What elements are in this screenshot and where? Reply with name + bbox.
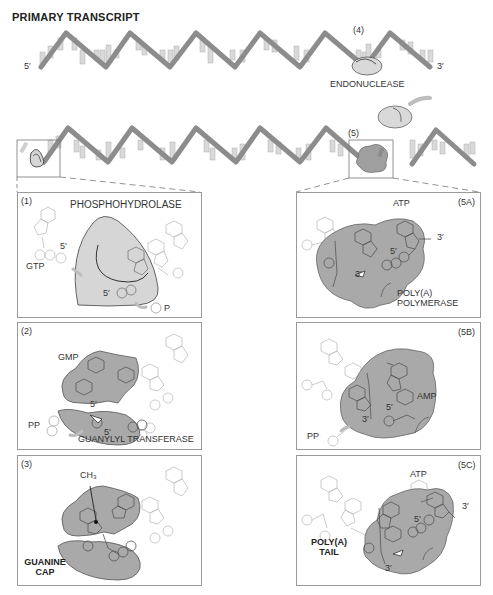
five-prime-label: 5′ xyxy=(414,514,421,524)
amp-label: AMP xyxy=(417,391,437,401)
guanine-cap-line2: CAP xyxy=(24,567,66,577)
five-prime-label: 5′ xyxy=(24,61,31,71)
panel-1-drawing xyxy=(18,193,201,317)
step-5c-label: (5C) xyxy=(458,460,476,470)
poly-a-tail-line2: TAIL xyxy=(303,547,355,557)
cleaved-strand xyxy=(17,98,479,192)
panel-poly-a-polymerase: ATP (5A) 3′ 5′ 3′ POLY(A) POLYMERASE xyxy=(296,192,481,318)
five-prime-label: 5′ xyxy=(90,399,97,409)
five-prime-label: 5′ xyxy=(60,241,67,251)
step-3-label: (3) xyxy=(21,459,32,469)
poly-a-tail-line1: POLY(A) xyxy=(303,537,355,547)
three-prime-label: 3′ xyxy=(437,232,444,242)
step-5b-label: (5B) xyxy=(458,327,475,337)
poly-a-polymerase-line2: POLYMERASE xyxy=(397,298,458,308)
poly-a-tail-label: POLY(A) TAIL xyxy=(303,537,355,557)
guanine-cap-label: GUANINE CAP xyxy=(24,557,66,577)
five-prime-label: 5′ xyxy=(390,246,397,256)
poly-a-polymerase-line1: POLY(A) xyxy=(397,288,458,298)
five-prime-label: 5′ xyxy=(103,288,110,298)
three-prime-label: 3′ xyxy=(462,501,469,511)
guanine-cap-line1: GUANINE xyxy=(24,557,66,567)
step-1-label: (1) xyxy=(21,196,32,206)
panel-amp-addition: (5B) AMP 5′ 3′ PP xyxy=(296,322,481,450)
step-5-label: (5) xyxy=(348,128,359,138)
methyl-label: CH₃ xyxy=(80,470,97,480)
five-prime-label: 5′ xyxy=(386,402,393,412)
panel-poly-a-tail: (5C) ATP 3′ 5′ 3′ POLY(A) TAIL xyxy=(296,455,481,586)
poly-a-polymerase-label: POLY(A) POLYMERASE xyxy=(397,288,458,308)
step-4-label: (4) xyxy=(353,25,364,35)
endonuclease-label: ENDONUCLEASE xyxy=(330,79,405,89)
gtp-label: GTP xyxy=(26,261,45,271)
gmp-label: GMP xyxy=(58,352,79,362)
primary-transcript-strand xyxy=(40,33,433,75)
panel-guanylyl-transferase: (2) GMP 5′ 5′ PP GUANYLYL TRANSFERASE xyxy=(17,322,202,450)
pyrophosphate-label: PP xyxy=(307,431,319,441)
panel-5b-drawing xyxy=(297,323,480,449)
phosphate-label: P xyxy=(164,303,170,313)
atp-label: ATP xyxy=(393,198,410,208)
phosphohydrolase-label: PHOSPHOHYDROLASE xyxy=(70,199,182,210)
three-prime-label: 3′ xyxy=(355,269,362,279)
guanylyl-transferase-label: GUANYLYL TRANSFERASE xyxy=(78,434,194,444)
pyrophosphate-label: PP xyxy=(28,420,40,430)
three-prime-label: 3′ xyxy=(362,414,369,424)
three-prime-label: 3′ xyxy=(385,563,392,573)
atp-label: ATP xyxy=(410,469,427,479)
step-5a-label: (5A) xyxy=(458,197,475,207)
step-2-label: (2) xyxy=(21,326,32,336)
panel-guanine-cap: (3) CH₃ GUANINE CAP xyxy=(17,455,202,586)
panel-phosphohydrolase: (1) PHOSPHOHYDROLASE 5′ GTP 5′ P xyxy=(17,192,202,318)
three-prime-label: 3′ xyxy=(437,61,444,71)
